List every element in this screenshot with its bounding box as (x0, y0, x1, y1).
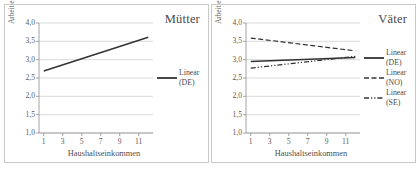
legend-label: Linear (DE) (179, 68, 199, 87)
legend-item[interactable]: Linear (DE) (364, 48, 406, 67)
x-tick-label: 7 (93, 137, 109, 146)
y-tick-label: 2,5 (222, 73, 242, 82)
legend-label: Linear (DE) (386, 48, 406, 67)
y-tick-label: 3,0 (222, 55, 242, 64)
x-tick-label: 7 (300, 137, 316, 146)
plot-area-muetter: 1,01,52,02,53,03,54,01357911Linear (DE) (5, 5, 208, 162)
y-tick-label: 1,0 (222, 128, 242, 137)
series-line (251, 38, 356, 51)
legend-line-swatch-dashdot (364, 89, 384, 99)
x-tick-label: 3 (55, 137, 71, 146)
y-tick-label: 3,5 (222, 36, 242, 45)
x-tick-label: 3 (262, 137, 278, 146)
y-tick-label: 2,0 (15, 91, 35, 100)
legend-label: Linear (NO) (386, 68, 406, 87)
chart-legend: Linear (DE)Linear (NO)Linear (SE) (364, 48, 406, 108)
x-tick-label: 11 (131, 137, 147, 146)
y-tick-label: 3,0 (15, 55, 35, 64)
x-tick-label: 11 (338, 137, 354, 146)
y-tick-label: 1,5 (15, 110, 35, 119)
legend-line-swatch-solid (157, 69, 177, 79)
y-tick-label: 1,0 (15, 128, 35, 137)
y-tick-label: 4,0 (222, 18, 242, 27)
x-tick-label: 9 (319, 137, 335, 146)
legend-line-swatch-solid (364, 49, 384, 59)
legend-item[interactable]: Linear (DE) (157, 68, 199, 87)
plot-area-vaeter: 1,01,52,02,53,03,54,01357911Linear (DE)L… (212, 5, 415, 162)
y-tick-label: 1,5 (222, 110, 242, 119)
y-tick-label: 4,0 (15, 18, 35, 27)
legend-item[interactable]: Linear (SE) (364, 88, 406, 107)
legend-line-swatch-dashed (364, 69, 384, 79)
legend-item[interactable]: Linear (NO) (364, 68, 406, 87)
x-tick-label: 5 (74, 137, 90, 146)
legend-label: Linear (SE) (386, 88, 406, 107)
chart-legend: Linear (DE) (157, 68, 199, 88)
x-tick-label: 1 (243, 137, 259, 146)
y-tick-label: 2,5 (15, 73, 35, 82)
figure-two-panel-line-charts: Mütter Arbeit egalitär Haushaltseinkomme… (0, 0, 416, 171)
x-tick-label: 5 (281, 137, 297, 146)
x-tick-label: 9 (112, 137, 128, 146)
panel-muetter: Mütter Arbeit egalitär Haushaltseinkomme… (4, 4, 209, 163)
series-line (44, 37, 149, 71)
y-tick-label: 2,0 (222, 91, 242, 100)
series-line (251, 56, 356, 68)
x-tick-label: 1 (36, 137, 52, 146)
y-tick-label: 3,5 (15, 36, 35, 45)
panel-vaeter: Väter Arbeit egalitär Haushaltseinkommen… (211, 4, 416, 163)
